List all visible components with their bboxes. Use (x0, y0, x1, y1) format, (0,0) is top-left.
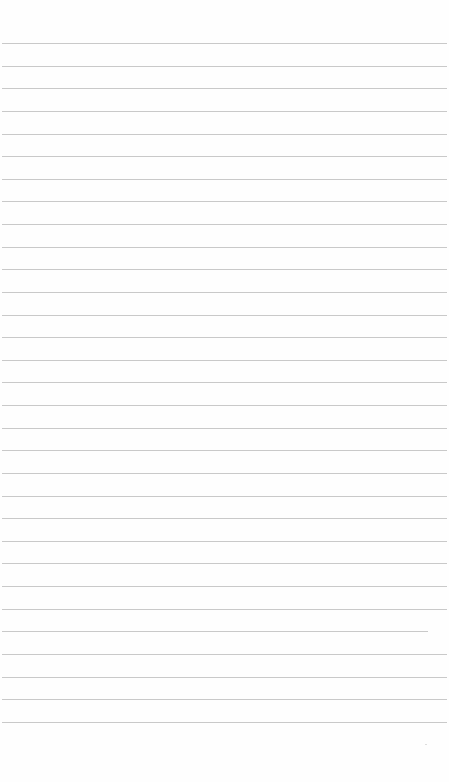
ruled-line (2, 134, 447, 135)
ruled-line (2, 405, 447, 406)
ruled-line (2, 450, 447, 451)
ruled-line (2, 654, 447, 655)
ruled-line (2, 360, 447, 361)
lined-page (0, 0, 449, 782)
ruled-line (2, 66, 447, 67)
ruled-line (2, 609, 447, 610)
ruled-line (2, 269, 447, 270)
ruled-line (2, 722, 447, 723)
ruled-line (2, 43, 447, 44)
ruled-line (2, 541, 447, 542)
ruled-line (2, 428, 447, 429)
ruled-line (2, 111, 447, 112)
ruled-line (2, 201, 447, 202)
ruled-line (2, 337, 447, 338)
ruled-line (2, 496, 447, 497)
ruled-line (2, 292, 447, 293)
ruled-line (2, 156, 447, 157)
ruled-line (2, 179, 447, 180)
ruled-line (2, 586, 447, 587)
ruled-line (2, 563, 447, 564)
ruled-line (2, 631, 428, 632)
ruled-line (2, 88, 447, 89)
ruled-line (2, 382, 447, 383)
ruled-line (2, 224, 447, 225)
ruled-line (2, 677, 447, 678)
ruled-line (2, 518, 447, 519)
faint-mark (425, 744, 427, 745)
ruled-line (2, 247, 447, 248)
ruled-line (2, 315, 447, 316)
ruled-line (2, 473, 447, 474)
ruled-line (2, 699, 447, 700)
